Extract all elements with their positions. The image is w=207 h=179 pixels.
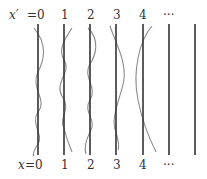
top-tick-3: 3 xyxy=(113,9,121,21)
wavy-curves xyxy=(33,26,156,156)
bottom-tick-3: 3 xyxy=(113,159,121,171)
top-tick-2: 2 xyxy=(87,9,95,21)
top-axis-label: x′ xyxy=(9,9,19,21)
top-tick-4: 4 xyxy=(139,9,147,21)
wavy-curve-3 xyxy=(110,26,124,150)
diagram-canvas xyxy=(0,0,207,179)
top-tick-1: 1 xyxy=(61,9,69,21)
bottom-tick-1: 1 xyxy=(61,159,69,171)
vertical-lines xyxy=(38,24,195,155)
wavy-curve-4 xyxy=(136,26,156,152)
top-tick-ellipsis: ··· xyxy=(163,9,174,21)
bottom-tick-ellipsis: ··· xyxy=(163,159,174,171)
bottom-tick-4: 4 xyxy=(139,159,147,171)
bottom-tick-0: =0 xyxy=(25,159,43,171)
top-tick-0: =0 xyxy=(27,9,45,21)
bottom-tick-2: 2 xyxy=(87,159,95,171)
wavy-curve-1 xyxy=(60,28,72,152)
bottom-axis-label: x xyxy=(18,159,25,171)
